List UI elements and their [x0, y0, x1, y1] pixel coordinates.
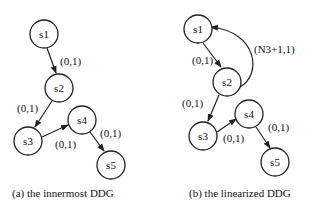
- edge-s1-s2: [47, 48, 56, 73]
- svg-text:s3: s3: [23, 135, 33, 147]
- edge-label-s1-s2: (0,1): [192, 54, 213, 67]
- svg-text:s2: s2: [54, 82, 64, 94]
- edge-s2-s3: [208, 95, 219, 121]
- node-s2: s2: [45, 74, 73, 102]
- caption-innermost-ddg: (a) the innermost DDG: [12, 187, 114, 199]
- node-s5: s5: [261, 148, 289, 176]
- node-s3: s3: [14, 127, 42, 155]
- edge-label-s2-s3: (0,1): [17, 102, 38, 115]
- svg-text:s5: s5: [270, 156, 280, 168]
- edge-label-s3-s4: (0,1): [55, 138, 76, 151]
- edge-s3-s4: [42, 125, 68, 137]
- edge-label-s4-s5: (0,1): [268, 121, 289, 134]
- edge-label-s2-s3: (0,1): [182, 97, 203, 110]
- diagram-innermost-ddg: (0,1) (0,1) (0,1) (0,1) s1 s2 s3 s4 s5: [14, 20, 125, 179]
- node-s4: s4: [68, 106, 96, 134]
- svg-text:s1: s1: [193, 23, 203, 35]
- edge-label-s1-s2: (0,1): [60, 55, 81, 68]
- node-s2: s2: [213, 68, 241, 96]
- svg-text:s3: s3: [198, 130, 208, 142]
- node-s5: s5: [97, 151, 125, 179]
- node-s3: s3: [189, 122, 217, 150]
- edge-s3-s4: [217, 119, 236, 132]
- svg-text:s5: s5: [106, 159, 116, 171]
- ddg-figure: (0,1) (0,1) (0,1) (0,1) s1 s2 s3 s4 s5 (…: [0, 0, 310, 216]
- node-s1: s1: [30, 20, 58, 48]
- edge-label-s2-s1: (N3+1,1): [254, 43, 295, 56]
- svg-text:s2: s2: [222, 76, 232, 88]
- node-s1: s1: [184, 15, 212, 43]
- diagram-linearized-ddg: (0,1) (N3+1,1) (0,1) (0,1) (0,1) s1 s2 s…: [182, 15, 295, 176]
- caption-linearized-ddg: (b) the linearized DDG: [189, 187, 291, 199]
- edge-label-s3-s4: (0,1): [223, 132, 244, 145]
- edge-label-s4-s5: (0,1): [100, 127, 121, 140]
- svg-text:s1: s1: [39, 28, 49, 40]
- svg-text:s4: s4: [244, 108, 254, 120]
- svg-text:s4: s4: [77, 114, 87, 126]
- node-s4: s4: [235, 100, 263, 128]
